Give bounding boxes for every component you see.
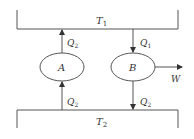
cold-reservoir: T2 bbox=[17, 110, 178, 129]
hot-reservoir-label: T1 bbox=[96, 15, 107, 28]
flow-hot-to-b-label: Q1 bbox=[140, 38, 151, 49]
heat-engine-diagram: T1 T2 A B Q2 Q1 Q2 Q2 W bbox=[0, 0, 194, 139]
flow-cold-to-a: Q2 bbox=[62, 82, 78, 110]
device-a-label: A bbox=[57, 62, 65, 73]
flow-b-to-cold: Q2 bbox=[133, 81, 151, 109]
flow-b-to-cold-label: Q2 bbox=[140, 97, 151, 108]
hot-reservoir: T1 bbox=[17, 10, 178, 29]
flow-a-to-hot-label: Q2 bbox=[67, 38, 78, 49]
device-b: B bbox=[111, 53, 155, 81]
work-output-label: W bbox=[171, 74, 181, 84]
device-a: A bbox=[40, 53, 84, 81]
flow-a-to-hot: Q2 bbox=[62, 30, 78, 53]
flow-cold-to-a-label: Q2 bbox=[67, 97, 78, 108]
cold-reservoir-label: T2 bbox=[96, 116, 107, 129]
work-output: W bbox=[155, 67, 182, 84]
device-b-label: B bbox=[128, 62, 136, 73]
flow-hot-to-b: Q1 bbox=[133, 29, 151, 52]
